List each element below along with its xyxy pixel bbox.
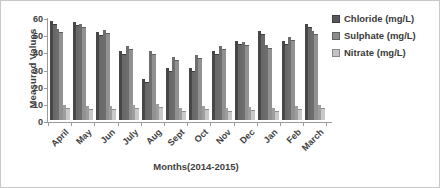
bar-front-face: [135, 108, 139, 120]
legend-label: Chloride (mg/L): [344, 13, 414, 24]
y-axis-tick: [44, 105, 47, 106]
y-axis-tick: [44, 71, 47, 72]
y-axis-tick: [44, 122, 47, 123]
bar-nitrate-march: [318, 108, 325, 120]
legend-swatch-icon: [332, 49, 340, 57]
x-tick-label-march: March: [300, 127, 326, 153]
bar-front-face: [298, 109, 302, 120]
x-axis-tick: [141, 123, 142, 126]
legend: Chloride (mg/L)Sulphate (mg/L)Nitrate (m…: [332, 10, 416, 61]
legend-label: Nitrate (mg/L): [344, 47, 406, 58]
x-axis-tick: [48, 123, 49, 126]
y-tick-label: 60: [17, 14, 43, 24]
y-tick-label: 50: [17, 31, 43, 41]
bar-front-face: [182, 111, 186, 120]
bar-nitrate-may: [86, 109, 93, 120]
bar-nitrate-jan: [272, 111, 279, 120]
x-tick-label-july: July: [120, 127, 140, 147]
x-axis-tick: [118, 123, 119, 126]
legend-item-nitrate: Nitrate (mg/L): [332, 44, 416, 61]
x-tick-label-jun: Jun: [99, 127, 117, 145]
bar-nitrate-aug: [156, 107, 163, 120]
bar-front-face: [321, 108, 325, 120]
bar-nitrate-dec: [248, 110, 255, 120]
bar-front-face: [275, 111, 279, 120]
x-axis-tick: [234, 123, 235, 126]
y-tick-label: 30: [17, 66, 43, 76]
legend-label: Sulphate (mg/L): [344, 30, 416, 41]
x-tick-label-may: May: [74, 127, 93, 146]
bar-front-face: [89, 109, 93, 120]
x-tick-label-nov: Nov: [214, 127, 233, 146]
bar-nitrate-july: [132, 108, 139, 120]
bar-front-face: [251, 110, 255, 120]
y-tick-label: 20: [17, 83, 43, 93]
bar-nitrate-sept: [179, 111, 186, 120]
x-axis-tick: [187, 123, 188, 126]
x-axis-line: [47, 122, 332, 123]
x-tick-label-jan: Jan: [261, 127, 279, 145]
x-tick-label-oct: Oct: [192, 127, 210, 145]
bar-nitrate-nov: [225, 111, 232, 120]
y-axis-line: [47, 18, 48, 123]
bar-nitrate-jun: [109, 109, 116, 120]
bar-front-face: [66, 108, 70, 120]
x-axis-tick: [326, 123, 327, 126]
x-tick-label-feb: Feb: [284, 127, 302, 145]
x-axis-tick: [210, 123, 211, 126]
y-tick-label: 40: [17, 48, 43, 58]
bar-front-face: [205, 109, 209, 120]
x-tick-label-aug: Aug: [144, 127, 163, 146]
y-axis-tick: [44, 36, 47, 37]
bar-nitrate-feb: [295, 109, 302, 120]
x-axis-tick: [303, 123, 304, 126]
legend-item-chloride: Chloride (mg/L): [332, 10, 416, 27]
x-tick-label-dec: Dec: [238, 127, 257, 146]
bar-front-face: [112, 109, 116, 120]
bar-front-face: [159, 107, 163, 120]
y-tick-label: 10: [17, 100, 43, 110]
legend-item-sulphate: Sulphate (mg/L): [332, 27, 416, 44]
x-axis-tick: [280, 123, 281, 126]
x-axis-tick: [94, 123, 95, 126]
legend-swatch-icon: [332, 15, 340, 23]
x-axis-tick: [257, 123, 258, 126]
y-axis-tick: [44, 53, 47, 54]
bar-nitrate-oct: [202, 109, 209, 120]
y-axis-tick: [44, 88, 47, 89]
x-axis-tick: [164, 123, 165, 126]
y-axis-tick: [44, 19, 47, 20]
x-axis-title: Months(2014-2015): [111, 161, 281, 172]
bar-front-face: [228, 111, 232, 120]
y-tick-label: 0: [17, 117, 43, 127]
x-tick-label-april: April: [49, 127, 71, 149]
bar-chart-figure: Measured Values Months(2014-2015) 010203…: [0, 0, 440, 188]
x-tick-label-sept: Sept: [166, 127, 187, 148]
bar-nitrate-april: [63, 108, 70, 120]
x-axis-tick: [71, 123, 72, 126]
legend-swatch-icon: [332, 32, 340, 40]
